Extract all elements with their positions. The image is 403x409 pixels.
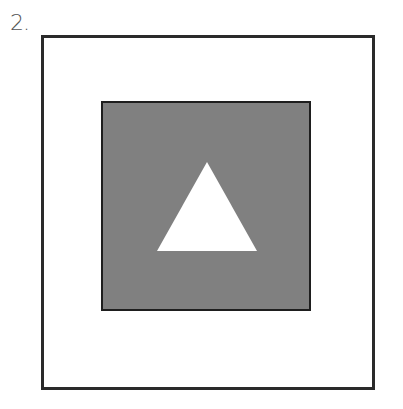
nested-shapes-diagram <box>0 0 403 409</box>
